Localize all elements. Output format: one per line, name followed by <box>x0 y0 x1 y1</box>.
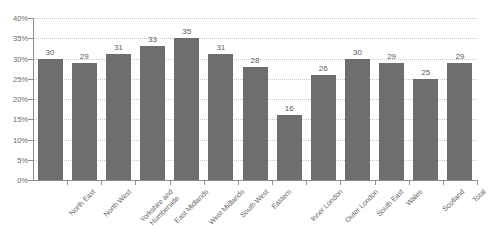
x-axis-tick-mark <box>409 180 410 185</box>
x-axis-tick-mark <box>101 180 102 185</box>
bar-value-label: 29 <box>447 52 472 61</box>
y-axis-tick-label: 30% <box>13 54 28 63</box>
x-axis-tick-mark <box>443 180 444 185</box>
x-axis-tick-mark <box>67 180 68 185</box>
bar-chart: 40%35%30%25%20%15%10%5%0% North EastNort… <box>0 0 491 242</box>
y-axis-tick-mark <box>28 140 33 141</box>
y-axis-tick-mark <box>28 38 33 39</box>
y-axis-tick-label: 10% <box>13 135 28 144</box>
x-axis-category-label: North East <box>67 188 97 218</box>
bar-value-label: 33 <box>140 35 165 44</box>
gridline <box>33 18 477 19</box>
y-axis-line <box>33 18 34 181</box>
y-axis-tick-mark <box>28 59 33 60</box>
bar <box>277 115 302 180</box>
x-axis-category-label: Wales <box>405 188 425 208</box>
bar-value-label: 26 <box>311 64 336 73</box>
y-axis: 40%35%30%25%20%15%10%5%0% <box>0 0 33 242</box>
y-axis-tick-label: 35% <box>13 34 28 43</box>
x-axis-tick-mark <box>170 180 171 185</box>
x-axis-category-label: North West <box>102 188 133 219</box>
bar-value-label: 16 <box>277 104 302 113</box>
y-axis-tick-mark <box>28 18 33 19</box>
bar <box>208 54 233 180</box>
y-axis-tick-mark <box>28 119 33 120</box>
y-axis-tick-mark <box>28 79 33 80</box>
y-axis-tick-label: 20% <box>13 95 28 104</box>
x-axis-category-label: Eastern <box>270 188 293 211</box>
y-axis-tick-label: 40% <box>13 14 28 23</box>
bar-value-label: 31 <box>106 43 131 52</box>
bar <box>243 67 268 180</box>
gridline <box>33 38 477 39</box>
x-axis-category-label: Total <box>472 188 489 205</box>
bar <box>38 59 63 181</box>
plot-area <box>33 18 477 180</box>
bar-value-label: 30 <box>38 48 63 57</box>
bar <box>447 63 472 180</box>
bar-value-label: 35 <box>174 27 199 36</box>
x-axis-line <box>33 180 477 181</box>
y-axis-tick-label: 15% <box>13 115 28 124</box>
x-axis-tick-mark <box>135 180 136 185</box>
y-axis-tick-mark <box>28 99 33 100</box>
bar <box>174 38 199 180</box>
y-axis-tick-label: 5% <box>17 155 28 164</box>
x-axis-tick-mark <box>272 180 273 185</box>
x-axis-category-label: Yorkshire and Humberside <box>139 188 181 230</box>
bar <box>345 59 370 181</box>
x-axis-category-label: Inner London <box>309 188 345 224</box>
y-axis-tick-mark <box>28 160 33 161</box>
bar-value-label: 28 <box>243 56 268 65</box>
bar-value-label: 31 <box>208 43 233 52</box>
x-axis-category-label: East Midlands <box>173 188 210 225</box>
bar-value-label: 30 <box>345 48 370 57</box>
bar <box>72 63 97 180</box>
bar-value-label: 29 <box>379 52 404 61</box>
bar <box>140 46 165 180</box>
bar <box>106 54 131 180</box>
x-axis-tick-mark <box>306 180 307 185</box>
y-axis-tick-mark <box>28 180 33 181</box>
x-axis-tick-mark <box>375 180 376 185</box>
bar <box>413 79 438 180</box>
x-axis-tick-mark <box>340 180 341 185</box>
bar-value-label: 25 <box>413 68 438 77</box>
x-axis-category-label: West Midlands <box>208 188 247 227</box>
bar <box>379 63 404 180</box>
bar <box>311 75 336 180</box>
bar-value-label: 29 <box>72 52 97 61</box>
x-axis-category-label: Scotland <box>441 188 467 214</box>
x-axis-tick-mark <box>477 180 478 185</box>
x-axis-tick-mark <box>238 180 239 185</box>
x-axis-tick-mark <box>204 180 205 185</box>
x-axis-category-label: Outer London <box>344 188 381 225</box>
y-axis-tick-label: 25% <box>13 74 28 83</box>
y-axis-tick-label: 0% <box>17 176 28 185</box>
